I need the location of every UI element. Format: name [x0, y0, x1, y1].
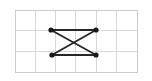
graph-vertex: [93, 27, 98, 32]
graph-diagram-svg: [0, 0, 152, 81]
figure-container: [0, 0, 152, 81]
graph-vertex: [93, 52, 98, 57]
graph-vertex: [48, 27, 53, 32]
graph-vertex: [49, 52, 54, 57]
